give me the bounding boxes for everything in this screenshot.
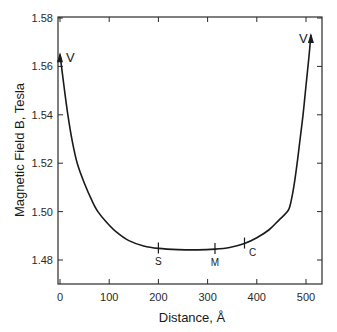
- marker-label-m: M: [211, 257, 219, 268]
- field-curve: [60, 35, 311, 250]
- y-axis-ticks: 1.481.501.521.541.561.58: [32, 12, 322, 266]
- v-label: V: [66, 50, 75, 65]
- y-tick-label: 1.56: [32, 60, 53, 72]
- marker-label-c: C: [249, 247, 256, 258]
- x-axis-title: Distance, Å: [159, 310, 226, 325]
- x-tick-label: 400: [248, 291, 266, 303]
- y-tick-label: 1.58: [32, 12, 53, 24]
- y-tick-label: 1.52: [32, 157, 53, 169]
- curve-annotations: VVSMC: [57, 31, 314, 268]
- marker-label-s: S: [155, 256, 162, 267]
- y-tick-label: 1.48: [32, 254, 53, 266]
- v-label: V: [299, 31, 308, 46]
- plot-frame: [58, 17, 322, 284]
- x-tick-label: 100: [100, 291, 118, 303]
- y-tick-label: 1.50: [32, 206, 53, 218]
- magnetic-field-chart: 1.481.501.521.541.561.58 010020030040050…: [0, 0, 337, 332]
- y-tick-label: 1.54: [32, 109, 53, 121]
- y-axis-title: Magnetic Field B, Tesla: [12, 82, 27, 217]
- arrow-icon: [308, 33, 314, 43]
- x-axis-ticks: 0100200300400500: [57, 17, 315, 303]
- x-tick-label: 300: [198, 291, 216, 303]
- x-tick-label: 0: [57, 291, 63, 303]
- x-tick-label: 200: [149, 291, 167, 303]
- x-tick-label: 500: [297, 291, 315, 303]
